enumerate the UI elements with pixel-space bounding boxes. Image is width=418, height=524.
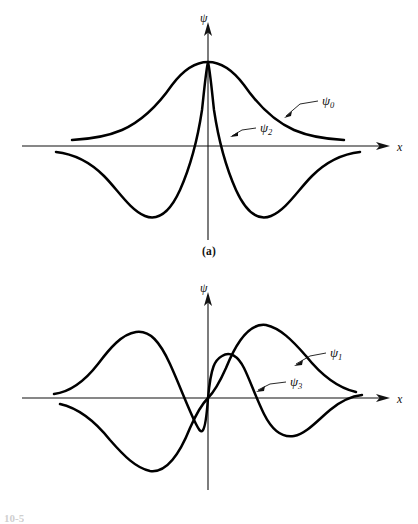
y-axis-label-a: ψ: [200, 11, 208, 25]
figure-root: ψ0 ψ2 ψ x (a): [0, 0, 418, 524]
label-psi3: ψ3: [290, 374, 302, 391]
panel-a-plot: ψ0 ψ2 ψ x: [0, 0, 418, 268]
label-psi1-group: ψ1: [294, 345, 342, 366]
label-psi1: ψ1: [330, 345, 342, 362]
y-axis-a: [204, 22, 212, 240]
panel-b: ψ1 ψ3 ψ x (b): [0, 268, 418, 524]
label-psi2: ψ2: [260, 120, 273, 137]
y-axis-label-b: ψ: [200, 281, 208, 295]
x-axis-a: [22, 142, 390, 150]
label-psi0: ψ0: [322, 93, 335, 110]
label-psi3-group: ψ3: [256, 374, 302, 392]
panel-a-caption: (a): [0, 245, 418, 257]
figure-number: 10-5: [4, 512, 24, 524]
x-axis-label-a: x: [396, 140, 403, 154]
panel-b-plot: ψ1 ψ3 ψ x: [0, 268, 418, 524]
panel-a: ψ0 ψ2 ψ x (a): [0, 0, 418, 268]
label-psi2-group: ψ2: [230, 120, 273, 137]
label-psi0-group: ψ0: [284, 93, 335, 118]
x-axis-label-b: x: [396, 392, 403, 406]
